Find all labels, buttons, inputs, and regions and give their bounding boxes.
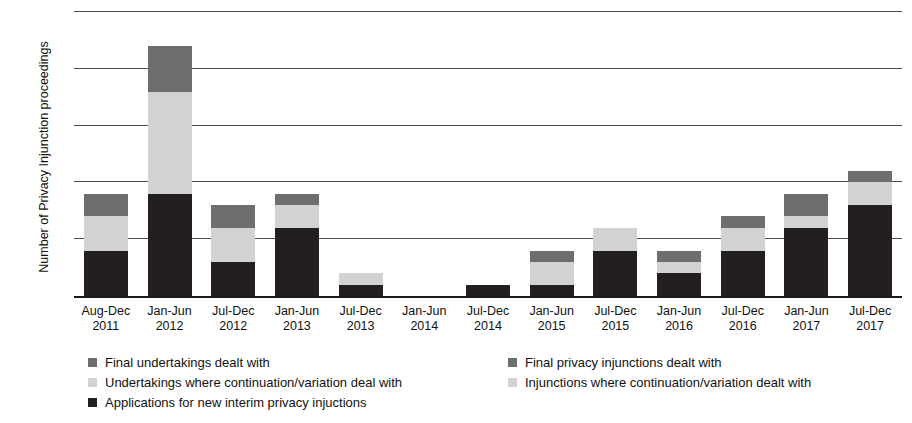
stacked-bar[interactable] (148, 46, 192, 296)
plot-area: 0510152025 (74, 12, 902, 298)
bar-slot (201, 12, 265, 296)
bar-segment[interactable] (275, 194, 319, 205)
bar-segment[interactable] (530, 285, 574, 296)
legend-item[interactable]: Undertakings where continuation/variatio… (88, 372, 508, 392)
bar-segment[interactable] (148, 46, 192, 91)
stacked-bar[interactable] (275, 194, 319, 296)
y-axis-title: Number of Privacy Injunction proceedings (37, 17, 51, 297)
bar-segment[interactable] (657, 251, 701, 262)
legend-swatch-icon (88, 398, 97, 407)
bar-segment[interactable] (593, 228, 637, 251)
x-axis-label: Jan-Jun2017 (775, 304, 839, 335)
bar-slot (392, 12, 456, 296)
x-axis-label: Jul-Dec2013 (329, 304, 393, 335)
bar-slot (74, 12, 138, 296)
stacked-bar[interactable] (593, 228, 637, 296)
bar-segment[interactable] (84, 216, 128, 250)
bar-segment[interactable] (848, 205, 892, 296)
stacked-bar-chart: Number of Privacy Injunction proceedings… (0, 0, 912, 423)
x-axis-label: Jan-Jun2016 (647, 304, 711, 335)
bar-segment[interactable] (339, 273, 383, 284)
legend-item-label: Injunctions where continuation/variation… (525, 375, 811, 390)
bar-segment[interactable] (721, 216, 765, 227)
x-axis-label: Jul-Dec2017 (838, 304, 902, 335)
x-axis-label: Jul-Dec2016 (711, 304, 775, 335)
bar-segment[interactable] (211, 205, 255, 228)
legend-item[interactable]: Injunctions where continuation/variation… (508, 372, 900, 392)
bar-slot (265, 12, 329, 296)
legend-swatch-icon (508, 378, 517, 387)
x-axis-labels: Aug-Dec2011Jan-Jun2012Jul-Dec2012Jan-Jun… (74, 304, 902, 335)
bar-segment[interactable] (657, 262, 701, 273)
bar-segment[interactable] (848, 171, 892, 182)
stacked-bar[interactable] (466, 285, 510, 296)
bar-segment[interactable] (657, 273, 701, 296)
x-axis-label: Jan-Jun2014 (392, 304, 456, 335)
bar-segment[interactable] (593, 251, 637, 296)
bar-slot (138, 12, 202, 296)
x-axis-label: Jan-Jun2013 (265, 304, 329, 335)
bar-segment[interactable] (530, 262, 574, 285)
legend-swatch-icon (88, 358, 97, 367)
legend-item-label: Undertakings where continuation/variatio… (105, 375, 402, 390)
bar-segment[interactable] (848, 182, 892, 205)
legend-swatch-icon (508, 358, 517, 367)
stacked-bar[interactable] (848, 171, 892, 296)
legend-swatch-icon (88, 378, 97, 387)
legend-item-label: Final privacy injunctions dealt with (525, 355, 722, 370)
chart-legend: Final undertakings dealt withFinal priva… (88, 352, 900, 412)
bar-segment[interactable] (784, 228, 828, 296)
bar-slot (584, 12, 648, 296)
legend-item-label: Final undertakings dealt with (105, 355, 270, 370)
x-axis-label: Jul-Dec2015 (584, 304, 648, 335)
bar-segment[interactable] (275, 205, 319, 228)
bar-segment[interactable] (84, 251, 128, 296)
bar-slot (329, 12, 393, 296)
x-axis-label: Jul-Dec2012 (201, 304, 265, 335)
legend-item-label: Applications for new interim privacy inj… (105, 395, 367, 410)
bar-segment[interactable] (784, 216, 828, 227)
bar-slot (647, 12, 711, 296)
bar-segment[interactable] (721, 228, 765, 251)
bar-segment[interactable] (148, 194, 192, 296)
x-axis-label: Jan-Jun2012 (138, 304, 202, 335)
stacked-bar[interactable] (784, 194, 828, 296)
bar-segment[interactable] (211, 228, 255, 262)
bar-segment[interactable] (148, 92, 192, 194)
bar-slot (711, 12, 775, 296)
bar-slot (456, 12, 520, 296)
stacked-bar[interactable] (211, 205, 255, 296)
legend-item[interactable]: Final privacy injunctions dealt with (508, 352, 900, 372)
bar-segment[interactable] (339, 285, 383, 296)
stacked-bar[interactable] (657, 251, 701, 296)
bars-group (74, 12, 902, 296)
bar-segment[interactable] (784, 194, 828, 217)
x-axis-label: Aug-Dec2011 (74, 304, 138, 335)
legend-item[interactable]: Final undertakings dealt with (88, 352, 508, 372)
bar-slot (838, 12, 902, 296)
bar-segment[interactable] (466, 285, 510, 296)
x-axis-label: Jan-Jun2015 (520, 304, 584, 335)
bar-slot (520, 12, 584, 296)
bar-segment[interactable] (211, 262, 255, 296)
legend-item[interactable]: Applications for new interim privacy inj… (88, 392, 508, 412)
stacked-bar[interactable] (84, 194, 128, 296)
bar-segment[interactable] (275, 228, 319, 296)
bar-segment[interactable] (84, 194, 128, 217)
stacked-bar[interactable] (721, 216, 765, 296)
x-axis-label: Jul-Dec2014 (456, 304, 520, 335)
bar-slot (775, 12, 839, 296)
stacked-bar[interactable] (339, 273, 383, 296)
stacked-bar[interactable] (530, 251, 574, 296)
x-axis-line (74, 296, 902, 298)
bar-segment[interactable] (721, 251, 765, 296)
bar-segment[interactable] (530, 251, 574, 262)
